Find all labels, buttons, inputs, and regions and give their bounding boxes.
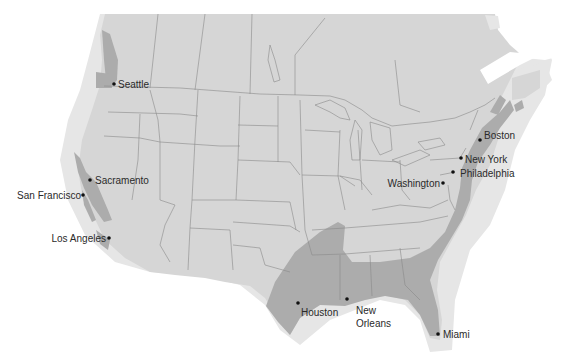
city-dot [436,332,440,336]
city-label-line2: Orleans [356,318,391,329]
city-dot [345,297,349,301]
city-seattle[interactable]: Seattle [112,79,149,90]
city-dot [88,178,92,182]
city-dot [459,156,463,160]
city-washington[interactable]: Washington [388,178,445,189]
city-label: Seattle [118,79,150,90]
city-los-angeles[interactable]: Los Angeles [52,233,111,244]
city-label: Philadelphia [460,168,515,179]
city-dot [441,181,445,185]
city-sacramento[interactable]: Sacramento [88,175,149,186]
city-philadelphia[interactable]: Philadelphia [451,168,515,179]
city-label: New York [465,154,508,165]
city-label: San Francisco [17,190,81,201]
city-label: Miami [443,329,470,340]
city-label: Los Angeles [52,233,107,244]
city-dot [81,193,85,197]
city-dot [478,138,482,142]
city-boston[interactable]: Boston [478,130,515,142]
city-new-york[interactable]: New York [459,154,508,165]
city-san-francisco[interactable]: San Francisco [17,190,85,201]
north-america-map: Seattle Sacramento San Francisco Los Ang… [0,0,565,359]
city-label-line1: New [356,305,377,316]
city-dot [107,236,111,240]
city-label: Houston [301,307,338,318]
city-label: Washington [388,178,440,189]
city-dot [451,170,455,174]
city-dot [112,82,116,86]
city-dot [296,301,300,305]
city-label: Sacramento [95,175,149,186]
city-label: Boston [484,130,515,141]
